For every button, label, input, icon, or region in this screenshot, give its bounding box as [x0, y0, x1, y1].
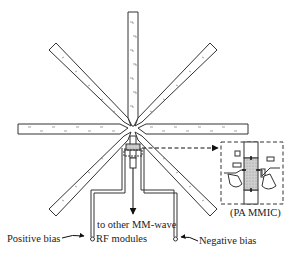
arm-right	[138, 124, 248, 134]
negative-bias-pointer	[181, 237, 198, 241]
arm-left	[18, 124, 128, 134]
output-label-line2: RF modules	[96, 234, 147, 245]
inset-caption: (PA MMIC)	[230, 208, 281, 219]
positive-bias-pointer	[62, 235, 84, 238]
pa-mmic-inset	[221, 142, 283, 204]
output-label-line1: to other MM-wave	[97, 220, 176, 231]
negative-bias-terminal	[174, 237, 178, 241]
arm-upper-left	[49, 43, 131, 126]
positive-bias-label: Positive bias	[7, 234, 60, 245]
arm-top	[128, 12, 138, 126]
arm-upper-right	[135, 43, 217, 126]
arm-lower-left	[49, 132, 131, 216]
negative-bias-label: Negative bias	[199, 236, 256, 247]
arm-lower-right	[135, 132, 217, 216]
positive-bias-terminal	[91, 237, 95, 241]
